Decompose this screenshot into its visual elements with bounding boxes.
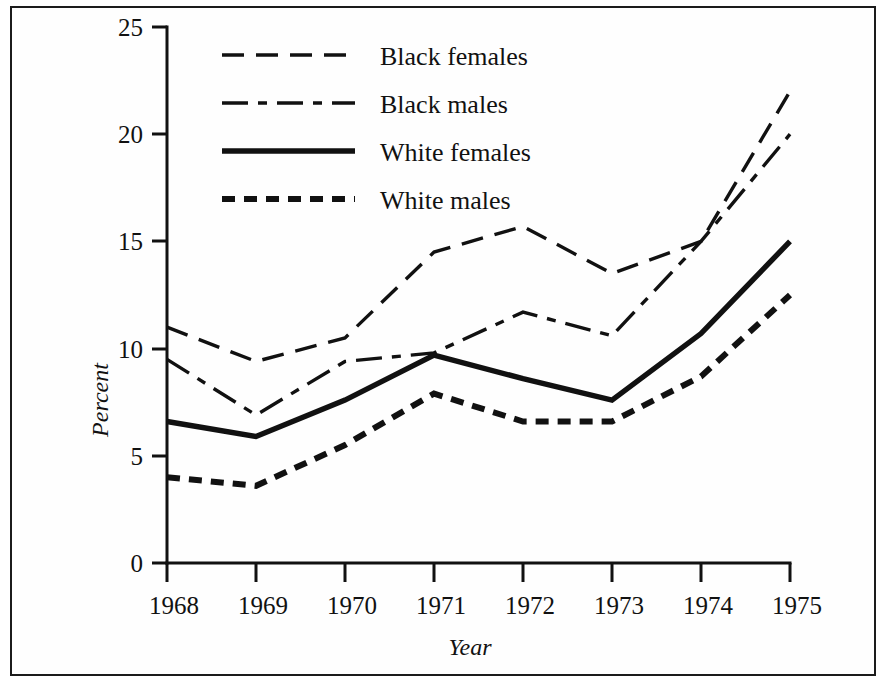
legend: Black females Black males White females …: [222, 42, 531, 215]
x-tick-label-1969: 1969: [238, 592, 288, 619]
y-tick-label-5: 5: [131, 443, 144, 470]
x-tick-label-1971: 1971: [416, 592, 466, 619]
x-axis-tick-labels: 1968 1969 1970 1971 1972 1973 1974 1975: [149, 592, 822, 619]
y-axis-ticks: [152, 27, 167, 563]
x-tick-label-1968: 1968: [149, 592, 199, 619]
y-axis-title: Percent: [87, 362, 113, 438]
x-tick-label-1974: 1974: [683, 592, 734, 619]
x-tick-label-1970: 1970: [327, 592, 377, 619]
legend-label-white-males: White males: [380, 186, 511, 215]
chart-svg: 25 20 15 10 5 0 1968 1969: [0, 0, 887, 690]
y-tick-label-15: 15: [118, 228, 143, 255]
x-tick-label-1975: 1975: [772, 592, 822, 619]
x-tick-label-1972: 1972: [505, 592, 555, 619]
figure-container: 25 20 15 10 5 0 1968 1969: [0, 0, 887, 690]
y-tick-label-25: 25: [118, 14, 143, 41]
x-axis-ticks: [167, 563, 790, 582]
legend-label-black-females: Black females: [380, 42, 528, 71]
legend-label-black-males: Black males: [380, 90, 508, 119]
legend-label-white-females: White females: [380, 138, 531, 167]
line-chart: 25 20 15 10 5 0 1968 1969: [0, 0, 887, 690]
series-black-males: [167, 134, 790, 415]
y-axis-tick-labels: 25 20 15 10 5 0: [118, 14, 143, 577]
x-tick-label-1973: 1973: [594, 592, 644, 619]
y-tick-label-0: 0: [131, 550, 144, 577]
series-black-females: [167, 91, 790, 361]
series-white-males: [167, 295, 790, 486]
y-tick-label-10: 10: [118, 336, 143, 363]
x-axis-title: Year: [448, 634, 492, 660]
y-tick-label-20: 20: [118, 121, 143, 148]
